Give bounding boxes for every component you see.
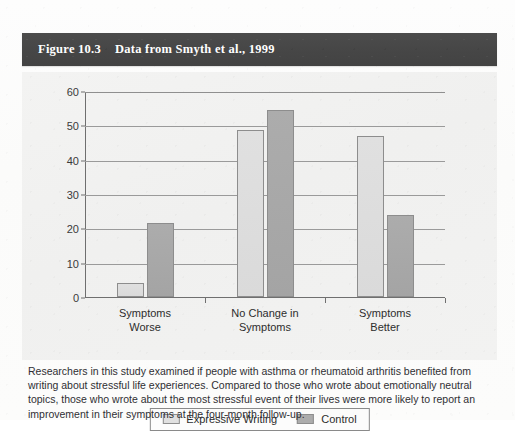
y-tick-label-40: 40	[67, 155, 79, 167]
gridline-30	[85, 195, 445, 196]
plot-area: 0102030405060 SymptomsWorseNo Change inS…	[85, 92, 445, 298]
category-label-symptoms-better: SymptomsBetter	[359, 306, 411, 334]
category-label-line: No Change in	[231, 306, 298, 320]
bar-expressive-writing-symptoms-better	[357, 136, 384, 297]
y-tick-label-10: 10	[67, 258, 79, 270]
bar-expressive-writing-symptoms-worse	[117, 283, 144, 297]
cut-off-text: ...	[62, 0, 362, 2]
gridline-40	[85, 161, 445, 162]
y-tick-label-30: 30	[67, 189, 79, 201]
category-label-symptoms-worse: SymptomsWorse	[119, 306, 171, 334]
category-separator-tick-2	[325, 298, 326, 303]
category-label-line: Worse	[119, 320, 171, 334]
chart-panel: 0102030405060 SymptomsWorseNo Change inS…	[22, 72, 497, 360]
figure-title: Data from Smyth et al., 1999	[115, 42, 275, 57]
figure-caption: Researchers in this study examined if pe…	[28, 364, 490, 421]
gridline-50	[85, 126, 445, 127]
x-axis-line	[85, 297, 445, 298]
bar-control-symptoms-worse	[147, 223, 174, 297]
cut-off-text-sliver: ...	[62, 0, 362, 9]
bar-expressive-writing-no-change-in-symptoms	[237, 130, 264, 297]
y-tick-mark-50	[81, 126, 85, 127]
category-label-line: Symptoms	[231, 320, 298, 334]
gridline-60	[85, 92, 445, 93]
y-tick-mark-60	[81, 92, 85, 93]
y-tick-label-60: 60	[67, 86, 79, 98]
category-axis-end-tick	[445, 298, 446, 303]
category-label-no-change-in-symptoms: No Change inSymptoms	[231, 306, 298, 334]
figure-number-label: Figure 10.3	[38, 42, 101, 57]
y-tick-mark-10	[81, 263, 85, 264]
bar-control-symptoms-better	[387, 215, 414, 297]
y-tick-label-20: 20	[67, 223, 79, 235]
bar-control-no-change-in-symptoms	[267, 110, 294, 297]
category-label-line: Symptoms	[119, 306, 171, 320]
y-tick-label-50: 50	[67, 120, 79, 132]
category-label-line: Better	[359, 320, 411, 334]
figure-header-bar: Figure 10.3 Data from Smyth et al., 1999	[22, 33, 497, 66]
category-separator-tick-1	[205, 298, 206, 303]
y-tick-label-0: 0	[73, 292, 79, 304]
y-tick-mark-30	[81, 195, 85, 196]
y-tick-mark-40	[81, 160, 85, 161]
y-tick-mark-0	[81, 298, 85, 299]
category-label-line: Symptoms	[359, 306, 411, 320]
y-tick-mark-20	[81, 229, 85, 230]
